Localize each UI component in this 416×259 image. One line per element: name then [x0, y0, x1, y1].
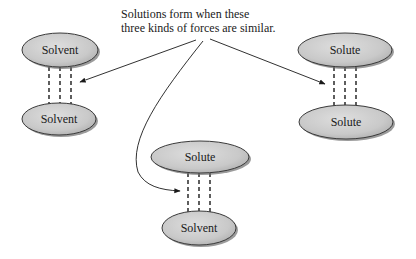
label-solvent: Solvent — [41, 112, 78, 126]
pair-solute-solute: Solute Solute — [298, 33, 395, 141]
label-solvent: Solvent — [42, 43, 79, 57]
ellipse-top-solute: Solute — [298, 33, 394, 69]
pair-solute-solvent: Solute Solvent — [151, 141, 251, 247]
ellipse-bottom-solvent: Solvent — [22, 103, 98, 137]
ellipse-bottom-solvent: Solvent — [162, 211, 238, 247]
pair-solvent-solvent: Solvent Solvent — [22, 33, 100, 137]
ellipse-top-solute: Solute — [151, 141, 251, 175]
dashed-bonds — [188, 173, 210, 212]
dashed-bonds — [49, 67, 71, 105]
label-solute: Solute — [331, 115, 362, 129]
ellipse-bottom-solute: Solute — [299, 105, 395, 141]
ellipse-top-solvent: Solvent — [22, 33, 100, 69]
label-solute: Solute — [185, 150, 216, 164]
label-solute: Solute — [330, 43, 361, 57]
label-solvent: Solvent — [181, 221, 218, 235]
forces-diagram: Solvent Solvent Solute Solute — [0, 0, 416, 259]
dashed-bonds — [334, 67, 356, 107]
